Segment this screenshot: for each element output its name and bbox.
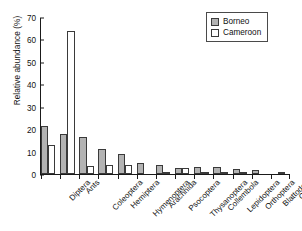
bar-group (156, 18, 175, 174)
bar-cameroon (221, 172, 228, 174)
y-axis-tick-label: 0 (31, 171, 40, 180)
legend-swatch-icon (211, 29, 219, 37)
y-axis-label: Relative abundance (%) (13, 1, 22, 121)
bar-group (271, 18, 290, 174)
y-axis-tick-label: 60 (27, 36, 40, 45)
bar-group (79, 18, 98, 174)
bar-cameroon (87, 166, 94, 174)
bar-cameroon (48, 145, 55, 174)
y-axis-tick-label: 50 (27, 58, 40, 67)
bar-cameroon (67, 31, 74, 174)
bar-borneo (79, 137, 86, 174)
y-axis-tick-label: 70 (27, 14, 40, 23)
bar-borneo (98, 149, 105, 174)
bar-borneo (118, 154, 125, 174)
legend-swatch-icon (211, 18, 219, 26)
bar-cameroon (278, 172, 285, 174)
bar-borneo (137, 163, 144, 174)
y-axis-tick-label: 20 (27, 126, 40, 135)
bar-cameroon (182, 168, 189, 174)
bar-borneo (60, 134, 67, 174)
bar-group (137, 18, 156, 174)
bar-borneo (233, 169, 240, 174)
bar-group (41, 18, 60, 174)
legend-item-label: Borneo (223, 17, 249, 26)
y-axis-tick-label: 40 (27, 81, 40, 90)
bar-borneo (175, 168, 182, 174)
bar-borneo (213, 167, 220, 174)
bar-chart: Relative abundance (%) 010203040506070 D… (0, 0, 302, 231)
bar-group (98, 18, 117, 174)
bar-cameroon (201, 172, 208, 174)
bar-group (60, 18, 79, 174)
bar-group (118, 18, 137, 174)
bar-cameroon (106, 165, 113, 174)
y-axis-tick-label: 30 (27, 103, 40, 112)
bar-cameroon (163, 172, 170, 174)
legend-item-label: Cameroon (223, 28, 261, 37)
bar-cameroon (240, 172, 247, 174)
bar-borneo (252, 170, 259, 174)
bar-borneo (156, 165, 163, 174)
bar-borneo (194, 167, 201, 174)
legend-item-borneo: Borneo (211, 16, 261, 27)
bar-cameroon (125, 165, 132, 174)
legend-item-cameroon: Cameroon (211, 27, 261, 38)
chart-legend: Borneo Cameroon (206, 12, 268, 42)
bar-borneo (41, 126, 48, 174)
x-axis-labels: DipteraAntsColeopteraHemipteraHymenopter… (40, 178, 292, 230)
y-axis-tick-label: 10 (27, 148, 40, 157)
bar-group (175, 18, 194, 174)
